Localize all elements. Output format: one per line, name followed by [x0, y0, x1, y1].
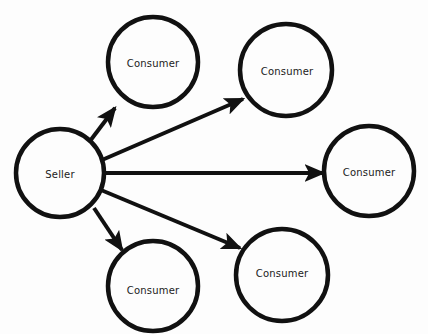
node-consumer-bottom-middle[interactable]	[236, 229, 328, 321]
edge-seller-to-consumer-top-right	[102, 99, 243, 160]
edge-seller-to-consumer-top-left	[90, 108, 115, 141]
node-consumer-bottom-left[interactable]	[108, 241, 198, 331]
node-consumer-right[interactable]	[324, 126, 414, 216]
node-consumer-top-left[interactable]	[108, 17, 198, 107]
edge-seller-to-consumer-bottom-left	[94, 208, 122, 250]
node-consumer-top-right[interactable]	[240, 24, 332, 116]
diagram-canvas: Seller Consumer Consumer Consumer Consum…	[0, 0, 428, 334]
diagram-graphics	[0, 0, 428, 334]
node-seller[interactable]	[16, 129, 104, 217]
edge-seller-to-consumer-bottom-middle	[101, 190, 240, 248]
